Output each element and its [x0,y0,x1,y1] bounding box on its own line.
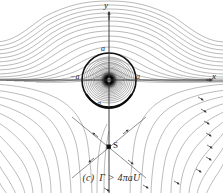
y-axis-label: y [104,0,108,10]
caption-index: (c) [83,172,95,183]
figure-caption: (c)Γ > 4πaU [0,172,223,183]
tick-label-top-a: a [101,44,105,53]
upper-streamline-group [0,1,223,82]
stagnation-point-marker [107,145,111,149]
tick-label-left-minus-a: −a [70,72,79,81]
x-axis-label: x [212,71,216,81]
caption-formula: Γ > 4πaU [99,172,140,183]
tick-label-bottom-a: a [97,99,101,108]
stagnation-point-label: S [113,140,118,150]
streamline-plot [0,0,223,193]
tick-label-right-a: a [136,72,140,81]
figure-container: y x a −a a a S (c)Γ > 4πaU [0,0,223,193]
